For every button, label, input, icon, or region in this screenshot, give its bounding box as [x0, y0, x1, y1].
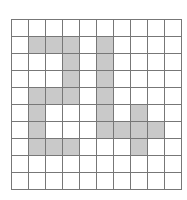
- shaded-cell: [63, 37, 80, 54]
- empty-cell: [29, 173, 46, 190]
- shaded-cell: [114, 122, 131, 139]
- shaded-cell: [46, 37, 63, 54]
- empty-cell: [80, 54, 97, 71]
- empty-cell: [80, 37, 97, 54]
- empty-cell: [165, 173, 182, 190]
- shaded-cell: [29, 37, 46, 54]
- shaded-cell: [97, 105, 114, 122]
- shaded-cell: [148, 122, 165, 139]
- empty-cell: [148, 105, 165, 122]
- shaded-cell: [97, 122, 114, 139]
- empty-cell: [29, 71, 46, 88]
- empty-cell: [46, 122, 63, 139]
- empty-cell: [114, 54, 131, 71]
- empty-cell: [12, 156, 29, 173]
- empty-cell: [114, 139, 131, 156]
- shaded-cell: [97, 54, 114, 71]
- empty-cell: [46, 156, 63, 173]
- empty-cell: [165, 139, 182, 156]
- empty-cell: [114, 105, 131, 122]
- empty-cell: [80, 156, 97, 173]
- empty-cell: [165, 54, 182, 71]
- empty-cell: [165, 20, 182, 37]
- empty-cell: [29, 54, 46, 71]
- empty-cell: [165, 105, 182, 122]
- empty-cell: [131, 88, 148, 105]
- empty-cell: [12, 88, 29, 105]
- empty-cell: [29, 156, 46, 173]
- empty-cell: [46, 173, 63, 190]
- empty-cell: [148, 139, 165, 156]
- empty-cell: [97, 156, 114, 173]
- shaded-cell: [63, 139, 80, 156]
- shaded-cell: [97, 71, 114, 88]
- empty-cell: [12, 122, 29, 139]
- empty-cell: [97, 20, 114, 37]
- empty-cell: [63, 173, 80, 190]
- empty-cell: [165, 37, 182, 54]
- empty-cell: [80, 139, 97, 156]
- empty-cell: [131, 54, 148, 71]
- empty-cell: [114, 88, 131, 105]
- empty-cell: [12, 71, 29, 88]
- empty-cell: [148, 54, 165, 71]
- empty-cell: [46, 20, 63, 37]
- empty-cell: [131, 173, 148, 190]
- empty-cell: [12, 54, 29, 71]
- empty-cell: [29, 20, 46, 37]
- empty-cell: [131, 20, 148, 37]
- empty-cell: [46, 54, 63, 71]
- empty-cell: [80, 173, 97, 190]
- empty-cell: [80, 71, 97, 88]
- empty-cell: [148, 71, 165, 88]
- shaded-cell: [63, 88, 80, 105]
- empty-cell: [12, 37, 29, 54]
- empty-cell: [165, 156, 182, 173]
- empty-cell: [148, 20, 165, 37]
- empty-cell: [148, 37, 165, 54]
- shaded-cell: [29, 139, 46, 156]
- empty-cell: [12, 173, 29, 190]
- empty-cell: [63, 20, 80, 37]
- empty-cell: [12, 105, 29, 122]
- empty-cell: [114, 156, 131, 173]
- shaded-cell: [29, 105, 46, 122]
- empty-cell: [97, 173, 114, 190]
- empty-cell: [114, 71, 131, 88]
- shaded-cell: [97, 88, 114, 105]
- empty-cell: [97, 139, 114, 156]
- empty-cell: [131, 71, 148, 88]
- empty-cell: [148, 173, 165, 190]
- empty-cell: [46, 105, 63, 122]
- shaded-cell: [131, 139, 148, 156]
- empty-cell: [131, 156, 148, 173]
- shaded-grid: [11, 19, 182, 190]
- empty-cell: [12, 139, 29, 156]
- empty-cell: [114, 20, 131, 37]
- empty-cell: [114, 37, 131, 54]
- empty-cell: [165, 71, 182, 88]
- shaded-cell: [97, 37, 114, 54]
- empty-cell: [12, 20, 29, 37]
- empty-cell: [46, 71, 63, 88]
- empty-cell: [114, 173, 131, 190]
- empty-cell: [148, 88, 165, 105]
- empty-cell: [165, 122, 182, 139]
- empty-cell: [80, 88, 97, 105]
- empty-cell: [63, 156, 80, 173]
- shaded-cell: [131, 122, 148, 139]
- empty-cell: [131, 37, 148, 54]
- empty-cell: [63, 105, 80, 122]
- empty-cell: [80, 20, 97, 37]
- empty-cell: [148, 156, 165, 173]
- shaded-cell: [46, 139, 63, 156]
- empty-cell: [165, 88, 182, 105]
- shaded-cell: [29, 122, 46, 139]
- shaded-cell: [63, 71, 80, 88]
- shaded-cell: [46, 88, 63, 105]
- empty-cell: [80, 122, 97, 139]
- shaded-cell: [63, 54, 80, 71]
- shaded-cell: [29, 88, 46, 105]
- empty-cell: [63, 122, 80, 139]
- shaded-cell: [131, 105, 148, 122]
